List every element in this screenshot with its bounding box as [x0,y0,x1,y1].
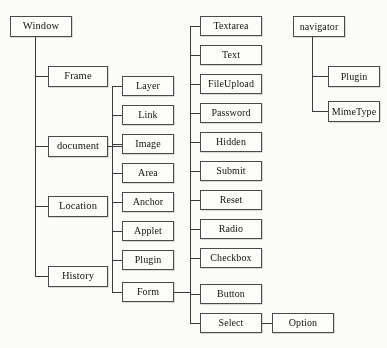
connector-window-to-document [35,146,48,147]
connector-window-to-history [35,276,48,277]
node-label-form: Form [137,287,159,297]
connector-form-to-checkbox [190,258,200,259]
node-label-image: Image [135,139,161,149]
connector-form-out [174,292,190,293]
connector-navigator-stem [312,37,313,112]
node-select[interactable]: Select [200,313,262,333]
connector-document-out [108,146,122,147]
node-hidden[interactable]: Hidden [200,132,262,152]
node-text[interactable]: Text [200,45,262,65]
node-label-text: Text [222,50,240,60]
node-label-location: Location [59,201,97,212]
node-image[interactable]: Image [122,134,174,154]
node-mimetype[interactable]: MimeType [328,101,380,122]
node-fileupload[interactable]: FileUpload [200,74,262,94]
connector-document-to-form [112,292,122,293]
connector-form-to-button [190,294,200,295]
node-label-window: Window [23,21,59,32]
node-location[interactable]: Location [48,196,108,217]
node-label-radio: Radio [219,224,243,234]
node-label-select: Select [218,318,243,328]
node-form[interactable]: Form [122,282,174,302]
node-frame[interactable]: Frame [48,66,108,87]
node-link[interactable]: Link [122,105,174,125]
connector-form-stem [190,26,191,323]
connector-document-to-plugin [112,260,122,261]
connector-document-to-applet [112,231,122,232]
node-label-layer: Layer [136,81,160,91]
connector-window-to-location [35,206,48,207]
connector-form-to-hidden [190,142,200,143]
connector-document-to-anchor [112,202,122,203]
node-label-plugin-nav: Plugin [341,71,368,81]
node-layer[interactable]: Layer [122,76,174,96]
node-label-link: Link [138,110,157,120]
node-reset[interactable]: Reset [200,190,262,210]
node-window[interactable]: Window [10,16,72,37]
connector-form-to-fileupload [190,84,200,85]
object-hierarchy-diagram: WindowFramedocumentLocationHistoryLayerL… [0,0,387,348]
node-label-mimetype: MimeType [332,106,377,116]
connector-window-stem [35,37,36,277]
node-document[interactable]: document [48,136,108,157]
connector-document-stem [112,86,113,292]
node-label-applet: Applet [134,226,162,236]
connector-form-to-textarea [190,26,200,27]
node-anchor[interactable]: Anchor [122,192,174,212]
node-textarea[interactable]: Textarea [200,16,262,36]
node-label-password: Password [211,108,250,118]
connector-window-to-frame [35,76,48,77]
node-label-anchor: Anchor [133,197,164,207]
connector-form-to-submit [190,171,200,172]
node-navigator[interactable]: navigator [293,16,345,37]
connector-document-to-area [112,173,122,174]
connector-form-to-select [190,323,200,324]
connector-select-to-option [262,323,272,324]
node-label-option: Option [289,318,317,328]
node-label-document: document [57,141,99,152]
node-label-reset: Reset [220,195,243,205]
node-label-hidden: Hidden [216,137,246,147]
node-label-submit: Submit [216,166,246,176]
node-checkbox[interactable]: Checkbox [200,248,262,268]
connector-document-to-layer [112,86,122,87]
connector-document-to-image [112,144,122,145]
connector-form-to-password [190,113,200,114]
connector-document-to-link [112,115,122,116]
connector-navigator-to-plugin [312,76,328,77]
node-label-button: Button [217,289,245,299]
node-label-checkbox: Checkbox [210,253,251,263]
node-history[interactable]: History [48,266,108,287]
node-label-navigator: navigator [300,21,339,31]
node-label-textarea: Textarea [213,21,248,31]
node-label-area: Area [138,168,158,178]
connector-form-to-radio [190,229,200,230]
connector-form-to-text [190,55,200,56]
node-option[interactable]: Option [272,313,334,333]
node-label-plugin-doc: Plugin [135,255,162,265]
node-radio[interactable]: Radio [200,219,262,239]
connector-navigator-to-mime [312,111,328,112]
node-label-frame: Frame [64,71,91,82]
connector-form-to-reset [190,200,200,201]
node-plugin-doc[interactable]: Plugin [122,250,174,270]
node-button[interactable]: Button [200,284,262,304]
node-password[interactable]: Password [200,103,262,123]
node-label-fileupload: FileUpload [208,79,254,89]
node-applet[interactable]: Applet [122,221,174,241]
node-label-history: History [62,271,94,282]
node-area[interactable]: Area [122,163,174,183]
node-plugin-nav[interactable]: Plugin [328,66,380,87]
node-submit[interactable]: Submit [200,161,262,181]
